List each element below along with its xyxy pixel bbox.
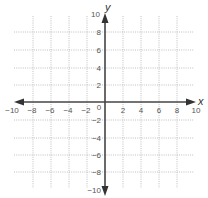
svg-text:−8: −8 — [27, 106, 37, 115]
svg-text:10: 10 — [91, 10, 100, 19]
svg-text:−4: −4 — [92, 134, 102, 143]
svg-text:−8: −8 — [92, 168, 102, 177]
y-axis-up-arrow-icon — [102, 13, 109, 23]
x-axis-left-arrow-icon — [14, 99, 24, 106]
svg-text:6: 6 — [97, 46, 102, 55]
svg-text:−6: −6 — [45, 106, 55, 115]
svg-text:4: 4 — [97, 64, 102, 73]
svg-text:−10: −10 — [5, 106, 19, 115]
svg-text:2: 2 — [121, 106, 126, 115]
svg-text:8: 8 — [97, 28, 102, 37]
svg-text:6: 6 — [157, 106, 162, 115]
svg-text:−4: −4 — [63, 106, 73, 115]
x-tick-labels: −10 −8 −6 −4 −2 0 2 4 6 8 10 — [5, 103, 201, 115]
svg-text:2: 2 — [97, 81, 102, 90]
svg-text:−6: −6 — [92, 151, 102, 160]
svg-text:0: 0 — [97, 103, 102, 112]
y-axis — [102, 13, 109, 196]
svg-text:10: 10 — [192, 106, 201, 115]
y-axis-down-arrow-icon — [102, 186, 109, 196]
y-axis-label: y — [104, 1, 112, 13]
svg-text:4: 4 — [139, 106, 144, 115]
svg-text:−2: −2 — [92, 116, 102, 125]
svg-text:8: 8 — [175, 106, 180, 115]
x-axis-right-arrow-icon — [186, 99, 196, 106]
coordinate-plane: x y −10 −8 −6 −4 −2 0 2 4 6 8 10 10 8 6 … — [0, 0, 208, 198]
svg-text:−10: −10 — [87, 186, 101, 195]
svg-text:−2: −2 — [81, 106, 91, 115]
